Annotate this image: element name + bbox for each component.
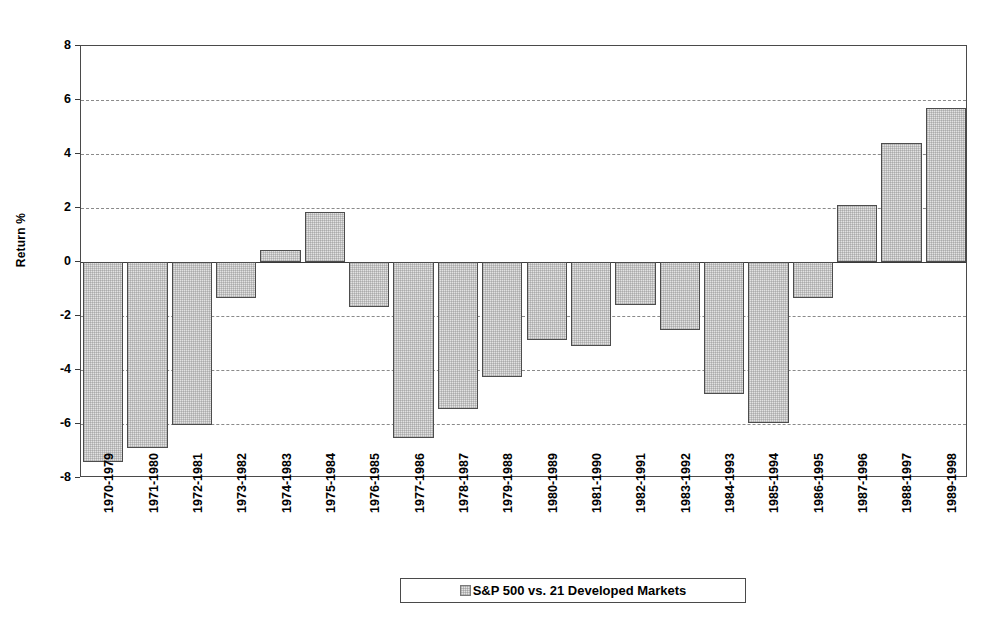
x-axis-tick-label: 1975-1984 — [324, 453, 338, 513]
y-axis-tick-label: 8 — [11, 39, 71, 52]
x-axis-tick-label: 1982-1991 — [634, 453, 648, 513]
x-axis-tick-labels: 1970-19791971-19801972-19811973-19821974… — [80, 477, 967, 577]
bar-slot — [347, 46, 391, 476]
plot-area — [80, 45, 967, 477]
y-axis-tick-label: 0 — [11, 255, 71, 268]
x-axis-tick-label: 1989-1998 — [945, 453, 959, 513]
y-axis-tick-label: -2 — [11, 309, 71, 322]
bar-slot — [214, 46, 258, 476]
bar[interactable] — [793, 262, 833, 298]
bar[interactable] — [438, 262, 478, 409]
x-axis-tick-label: 1981-1990 — [590, 453, 604, 513]
x-axis-label-slot: 1984-1993 — [701, 477, 745, 577]
bar-chart: Return % 86420-2-4-6-8 1970-19791971-198… — [0, 0, 997, 629]
bar-slot — [480, 46, 524, 476]
y-axis-tick-label: 2 — [11, 201, 71, 214]
bar-slot — [170, 46, 214, 476]
x-axis-tick-label: 1970-1979 — [102, 453, 116, 513]
bar[interactable] — [926, 108, 966, 262]
bar[interactable] — [837, 205, 877, 262]
bar-slot — [258, 46, 302, 476]
bar-slot — [835, 46, 879, 476]
bar-slot — [125, 46, 169, 476]
x-axis-label-slot: 1987-1996 — [834, 477, 878, 577]
x-axis-label-slot: 1971-1980 — [124, 477, 168, 577]
bar-slot — [303, 46, 347, 476]
x-axis-tick-label: 1978-1987 — [457, 453, 471, 513]
bar-slot — [879, 46, 923, 476]
bar[interactable] — [260, 250, 300, 262]
y-axis-title: Return % — [14, 180, 28, 300]
legend-swatch-icon — [460, 585, 471, 596]
x-axis-label-slot: 1979-1988 — [479, 477, 523, 577]
bar-slot — [658, 46, 702, 476]
x-axis-label-slot: 1981-1990 — [568, 477, 612, 577]
bar[interactable] — [393, 262, 433, 438]
legend: S&P 500 vs. 21 Developed Markets — [400, 578, 746, 603]
bar-slot — [569, 46, 613, 476]
x-axis-tick-label: 1976-1985 — [368, 453, 382, 513]
x-axis-tick-label: 1972-1981 — [191, 453, 205, 513]
x-axis-label-slot: 1982-1991 — [612, 477, 656, 577]
bar[interactable] — [527, 262, 567, 340]
y-axis-tick-label: 6 — [11, 93, 71, 106]
bar[interactable] — [704, 262, 744, 394]
bar[interactable] — [571, 262, 611, 346]
x-axis-tick-label: 1986-1995 — [812, 453, 826, 513]
bar-slot — [525, 46, 569, 476]
x-axis-tick-label: 1979-1988 — [501, 453, 515, 513]
x-axis-tick-label: 1987-1996 — [856, 453, 870, 513]
x-axis-tick-label: 1977-1986 — [413, 453, 427, 513]
bar[interactable] — [349, 262, 389, 307]
x-axis-tick-label: 1971-1980 — [147, 453, 161, 513]
bar-slot — [702, 46, 746, 476]
x-axis-tick-label: 1973-1982 — [235, 453, 249, 513]
bar-slot — [613, 46, 657, 476]
x-axis-label-slot: 1972-1981 — [169, 477, 213, 577]
x-axis-label-slot: 1988-1997 — [878, 477, 922, 577]
x-axis-label-slot: 1977-1986 — [390, 477, 434, 577]
x-axis-label-slot: 1989-1998 — [923, 477, 967, 577]
x-axis-label-slot: 1980-1989 — [524, 477, 568, 577]
bar[interactable] — [83, 262, 123, 462]
legend-item: S&P 500 vs. 21 Developed Markets — [460, 583, 687, 598]
x-axis-label-slot: 1970-1979 — [80, 477, 124, 577]
bar[interactable] — [305, 212, 345, 262]
x-axis-label-slot: 1985-1994 — [745, 477, 789, 577]
bar[interactable] — [127, 262, 167, 448]
bar[interactable] — [216, 262, 256, 298]
y-axis-tick-label: 4 — [11, 147, 71, 160]
x-axis-label-slot: 1976-1985 — [346, 477, 390, 577]
bar-slot — [791, 46, 835, 476]
y-axis-tick-label: -6 — [11, 417, 71, 430]
bar-slot — [746, 46, 790, 476]
bar[interactable] — [660, 262, 700, 330]
x-axis-label-slot: 1983-1992 — [657, 477, 701, 577]
bar[interactable] — [615, 262, 655, 305]
x-axis-tick-label: 1984-1993 — [723, 453, 737, 513]
x-axis-tick-label: 1985-1994 — [767, 453, 781, 513]
x-axis-label-slot: 1973-1982 — [213, 477, 257, 577]
bar[interactable] — [881, 143, 921, 262]
bar-slot — [436, 46, 480, 476]
x-axis-tick-label: 1980-1989 — [546, 453, 560, 513]
x-axis-tick-label: 1988-1997 — [900, 453, 914, 513]
bar[interactable] — [172, 262, 212, 425]
bar-slot — [81, 46, 125, 476]
bar[interactable] — [482, 262, 522, 377]
y-axis-tick-label: -8 — [11, 471, 71, 484]
bars-layer — [81, 46, 966, 476]
bar[interactable] — [748, 262, 788, 423]
bar-slot — [391, 46, 435, 476]
x-axis-label-slot: 1986-1995 — [790, 477, 834, 577]
x-axis-tick-label: 1974-1983 — [280, 453, 294, 513]
y-axis-tick-label: -4 — [11, 363, 71, 376]
x-axis-label-slot: 1974-1983 — [257, 477, 301, 577]
x-axis-label-slot: 1975-1984 — [302, 477, 346, 577]
legend-item-label: S&P 500 vs. 21 Developed Markets — [473, 583, 687, 598]
bar-slot — [924, 46, 968, 476]
x-axis-tick-label: 1983-1992 — [679, 453, 693, 513]
x-axis-label-slot: 1978-1987 — [435, 477, 479, 577]
